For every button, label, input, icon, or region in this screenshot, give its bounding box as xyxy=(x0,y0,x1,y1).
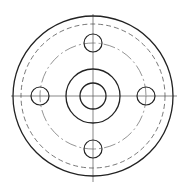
flange-drawing xyxy=(0,0,181,189)
